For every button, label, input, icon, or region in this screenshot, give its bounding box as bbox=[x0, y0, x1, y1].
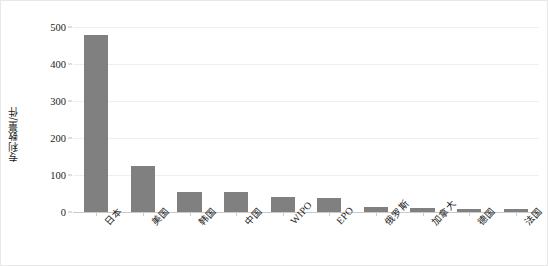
x-tick-label: 韩国 bbox=[195, 219, 205, 228]
bar bbox=[177, 192, 201, 212]
x-axis-tick-labels: 日本美国韩国中国WIPOEPO俄罗斯加拿大德国法国 bbox=[73, 212, 539, 266]
x-tick-label: 中国 bbox=[241, 219, 251, 228]
y-axis-title: 专利数量/件 bbox=[3, 1, 23, 266]
x-tick-mark bbox=[516, 212, 517, 216]
y-tick-mark-500 bbox=[68, 27, 72, 28]
y-tick-mark-200 bbox=[68, 138, 72, 139]
x-tick-label: 日本 bbox=[101, 219, 111, 228]
y-axis-title-text: 专利数量/件 bbox=[6, 106, 21, 162]
bar bbox=[224, 192, 248, 212]
bar bbox=[131, 166, 155, 212]
y-tick-label: 300 bbox=[50, 96, 66, 107]
plot-area: 0100200300400500 bbox=[73, 27, 539, 212]
gridline-300 bbox=[73, 101, 539, 102]
bar bbox=[271, 197, 295, 212]
x-tick-mark bbox=[469, 212, 470, 216]
x-tick-label: EPO bbox=[334, 219, 342, 226]
bar-chart-figure: 专利数量/件 0100200300400500 日本美国韩国中国WIPOEPO俄… bbox=[0, 0, 548, 266]
x-tick-mark bbox=[236, 212, 237, 216]
y-tick-label: 500 bbox=[50, 22, 66, 33]
y-tick-label: 100 bbox=[50, 170, 66, 181]
x-tick-mark bbox=[423, 212, 424, 216]
x-tick-label: WIPO bbox=[288, 219, 296, 226]
gridline-500 bbox=[73, 27, 539, 28]
y-tick-mark-100 bbox=[68, 175, 72, 176]
y-tick-mark-300 bbox=[68, 101, 72, 102]
y-tick-label: 400 bbox=[50, 59, 66, 70]
x-tick-label: 加拿大 bbox=[428, 219, 438, 228]
y-tick-label: 200 bbox=[50, 133, 66, 144]
x-tick-mark bbox=[143, 212, 144, 216]
x-tick-mark bbox=[190, 212, 191, 216]
x-tick-label: 俄罗斯 bbox=[381, 219, 391, 228]
x-tick-label: 法国 bbox=[521, 219, 531, 228]
y-tick-mark-0 bbox=[68, 212, 72, 213]
x-tick-label: 德国 bbox=[474, 219, 484, 228]
bar bbox=[84, 35, 108, 212]
bar bbox=[317, 198, 341, 212]
gridline-200 bbox=[73, 138, 539, 139]
gridline-400 bbox=[73, 64, 539, 65]
x-tick-mark bbox=[376, 212, 377, 216]
x-tick-mark bbox=[283, 212, 284, 216]
y-tick-mark-400 bbox=[68, 64, 72, 65]
y-tick-label: 0 bbox=[61, 207, 66, 218]
x-tick-mark bbox=[96, 212, 97, 216]
x-tick-mark bbox=[329, 212, 330, 216]
x-tick-label: 美国 bbox=[148, 219, 158, 228]
